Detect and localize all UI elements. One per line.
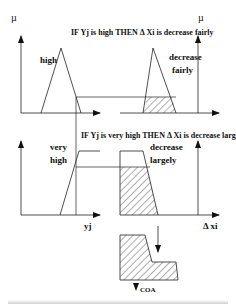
set-label-high-2: high	[50, 155, 67, 165]
bottom-left-axes: very high yj	[21, 141, 100, 231]
aggregated-result: COA	[120, 226, 178, 294]
rule-2-text: IF Yj is very high THEN Δ Xi is decrease…	[81, 131, 236, 140]
aggregated-output-shape	[120, 235, 178, 280]
mu-label-top-right: µ	[198, 12, 204, 23]
bottom-right-axes: decrease largely Δ xi	[120, 141, 219, 231]
set-label-decrease: decrease	[169, 52, 202, 62]
fuzzy-inference-diagram: µ high IF Yj is high THEN Δ Xi is decrea…	[0, 0, 236, 304]
set-label-decrease-2: decrease	[150, 142, 183, 152]
set-label-largely: largely	[150, 155, 177, 165]
mu-label-top-left: µ	[11, 12, 17, 23]
x-axis-label-delta-xi: Δ xi	[203, 221, 218, 231]
set-label-very: very	[50, 142, 67, 152]
cropped-caption	[8, 300, 228, 304]
rule-1-text: IF Yj is high THEN Δ Xi is decrease fair…	[71, 28, 214, 37]
coa-marker-icon	[133, 283, 139, 291]
set-label-fairly: fairly	[172, 65, 193, 75]
x-axis-label-yj: yj	[84, 221, 92, 231]
set-label-high: high	[40, 55, 57, 65]
coa-label: COA	[140, 286, 156, 294]
